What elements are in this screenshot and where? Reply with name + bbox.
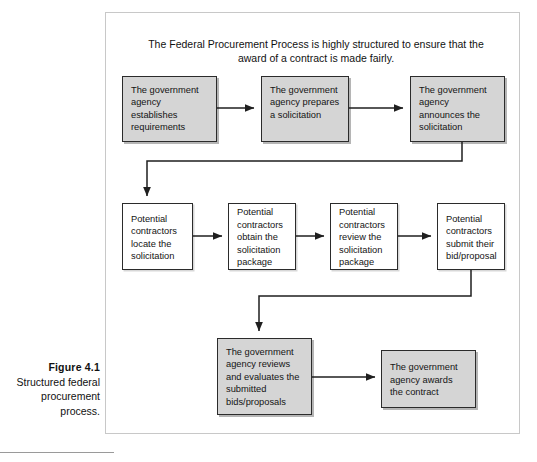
figure-description: Structured federal procurement process.	[0, 375, 100, 419]
node-locate-solicitation: Potential contractors locate the solicit…	[122, 203, 193, 270]
node-label: The government agency awards the contrac…	[390, 361, 468, 398]
node-label: The government agency establishes requir…	[131, 84, 209, 134]
node-label: The government agency prepares a solicit…	[270, 84, 341, 121]
node-review-package: Potential contractors review the solicit…	[330, 203, 398, 270]
node-label: The government agency reviews and evalua…	[226, 346, 304, 408]
diagram-title: The Federal Procurement Process is highl…	[142, 37, 490, 65]
figure-number: Figure 4.1	[0, 360, 100, 375]
caption-divider-rule	[0, 452, 114, 453]
node-establish-requirements: The government agency establishes requir…	[122, 76, 217, 142]
node-label: Potential contractors submit their bid/p…	[446, 213, 497, 263]
node-label: The government agency announces the soli…	[419, 84, 497, 134]
node-announce-solicitation: The government agency announces the soli…	[410, 76, 505, 142]
node-award-contract: The government agency awards the contrac…	[381, 350, 476, 408]
diagram-frame: The Federal Procurement Process is highl…	[105, 12, 520, 434]
node-prepare-solicitation: The government agency prepares a solicit…	[261, 76, 349, 142]
node-label: Potential contractors review the solicit…	[339, 206, 390, 268]
node-label: Potential contractors obtain the solicit…	[237, 206, 288, 268]
node-submit-bid: Potential contractors submit their bid/p…	[437, 203, 505, 270]
node-obtain-package: Potential contractors obtain the solicit…	[228, 203, 296, 270]
node-review-evaluate-bids: The government agency reviews and evalua…	[217, 338, 312, 415]
figure-caption: Figure 4.1 Structured federal procuremen…	[0, 360, 100, 418]
node-label: Potential contractors locate the solicit…	[131, 213, 185, 263]
